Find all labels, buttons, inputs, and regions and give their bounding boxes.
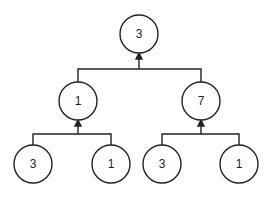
arrow-head-icon	[136, 53, 142, 59]
node-leaf-1-label: 3	[13, 154, 53, 174]
node-leaf-2-label: 1	[91, 154, 131, 174]
node-leaf-3-label: 3	[142, 154, 182, 174]
edge-right-bracket	[162, 134, 239, 145]
node-leaf-4-label: 1	[219, 154, 259, 174]
tree-diagram: 3 1 7 3 1 3 1	[0, 0, 275, 199]
node-root-label: 3	[119, 24, 159, 44]
arrow-head-icon	[198, 120, 204, 126]
edge-root-bracket	[78, 69, 201, 82]
arrow-head-icon	[75, 120, 81, 126]
edge-left-bracket	[33, 134, 111, 145]
node-mid-right-label: 7	[181, 91, 221, 111]
node-mid-left-label: 1	[58, 91, 98, 111]
